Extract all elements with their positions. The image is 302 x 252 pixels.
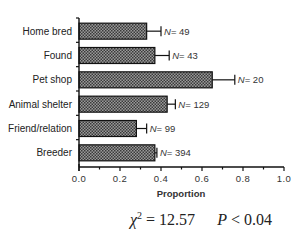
category-label: Animal shelter — [9, 99, 73, 110]
bar-row: N= 129 — [79, 96, 209, 112]
n-label: N= 99 — [150, 123, 176, 134]
x-axis: 0.00.20.40.60.81.0 — [72, 164, 292, 184]
bar-row: N= 49 — [79, 23, 190, 39]
bar — [79, 121, 136, 137]
category-label: Breeder — [36, 147, 72, 158]
n-label: N= 394 — [160, 147, 191, 158]
bar — [79, 23, 147, 39]
chi-exponent: 2 — [137, 210, 142, 221]
p-value: < 0.04 — [231, 211, 272, 228]
category-label: Friend/relation — [8, 123, 72, 134]
x-tick-label: 1.0 — [277, 173, 292, 184]
bars-group: N= 49N= 43N= 20N= 129N= 99N= 394 — [79, 23, 263, 161]
p-symbol: P — [217, 211, 227, 228]
x-tick-label: 0.6 — [195, 173, 210, 184]
x-tick-label: 0.8 — [236, 173, 251, 184]
bar — [79, 96, 167, 112]
category-label: Found — [44, 50, 72, 61]
x-axis-label: Proportion — [157, 188, 206, 199]
x-tick-label: 0.4 — [154, 173, 169, 184]
bar-row: N= 20 — [79, 72, 263, 88]
bar-row: N= 394 — [79, 145, 191, 161]
n-label: N= 20 — [238, 74, 264, 85]
chi-value: = 12.57 — [146, 211, 195, 228]
y-axis: Home bredFoundPet shopAnimal shelterFrie… — [8, 18, 79, 167]
bar — [79, 72, 212, 88]
category-label: Home bred — [23, 26, 72, 37]
n-label: N= 49 — [164, 26, 190, 37]
bar-chart: N= 49N= 43N= 20N= 129N= 99N= 394 Home br… — [0, 0, 302, 210]
category-label: Pet shop — [33, 74, 73, 85]
x-tick-label: 0.0 — [72, 173, 87, 184]
x-tick-label: 0.2 — [113, 173, 128, 184]
bar — [79, 145, 155, 161]
bar-row: N= 99 — [79, 121, 175, 137]
bar-row: N= 43 — [79, 48, 198, 64]
bar — [79, 48, 155, 64]
statistic-annotation: χ2 = 12.57 P < 0.04 — [100, 210, 302, 229]
n-label: N= 129 — [178, 99, 209, 110]
n-label: N= 43 — [172, 50, 198, 61]
